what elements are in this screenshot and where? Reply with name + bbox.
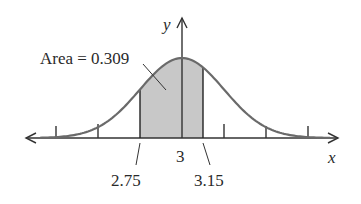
upper-bound-leader-line — [203, 143, 210, 165]
area-annotation: Area = 0.309 — [40, 50, 129, 67]
mean-tick-label: 3 — [176, 148, 185, 165]
y-axis-label: y — [163, 16, 171, 33]
upper-bound-label: 3.15 — [194, 172, 224, 189]
lower-bound-leader-line — [136, 143, 140, 165]
lower-bound-label: 2.75 — [111, 172, 141, 189]
x-axis-label: x — [328, 149, 336, 166]
shaded-area-region — [140, 58, 203, 138]
normal-curve-figure — [0, 0, 361, 204]
